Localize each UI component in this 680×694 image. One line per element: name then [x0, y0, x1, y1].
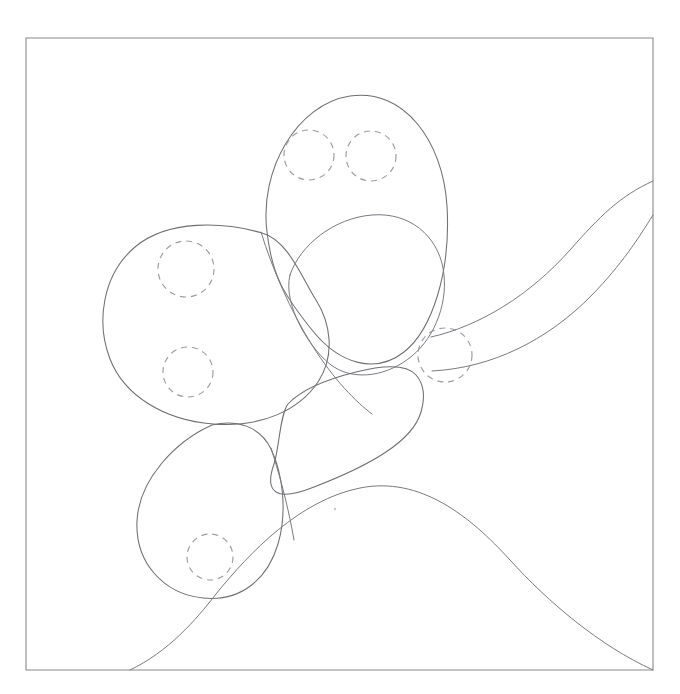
drawing-canvas	[0, 0, 680, 694]
line-art-svg	[0, 0, 680, 694]
ink-speck	[334, 508, 336, 510]
canvas-background	[0, 0, 680, 694]
